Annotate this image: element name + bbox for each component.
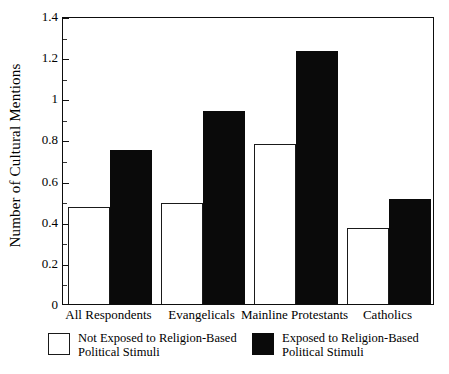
legend-label-exposed-line2: Political Stimuli	[282, 346, 419, 360]
x-axis-category-labels: All RespondentsEvangelicalsMainline Prot…	[62, 307, 434, 329]
y-tick-label: 0.4	[42, 215, 58, 231]
bar-exposed	[389, 199, 431, 304]
y-tick-label: 0	[52, 297, 59, 313]
y-axis-tick-mark	[63, 18, 69, 19]
y-axis-minor-tick-mark	[63, 80, 67, 81]
plot-area	[62, 17, 434, 305]
bar-not-exposed	[68, 207, 110, 304]
bar-exposed	[203, 111, 245, 304]
legend-label-exposed-line1: Exposed to Religion-Based	[282, 332, 419, 346]
x-axis-label: All Respondents	[65, 307, 151, 323]
x-axis-label: Evangelicals	[168, 307, 234, 323]
x-axis-label: Catholics	[363, 307, 412, 323]
y-axis-minor-tick-mark	[63, 39, 67, 40]
chart-legend: Not Exposed to Religion-Based Political …	[48, 332, 448, 374]
legend-label-not-exposed: Not Exposed to Religion-Based Political …	[78, 332, 237, 359]
y-axis-tick-mark	[63, 59, 69, 60]
y-axis-tick-mark	[63, 141, 69, 142]
legend-swatch-not-exposed	[48, 333, 70, 355]
legend-entry-exposed: Exposed to Religion-Based Political Stim…	[252, 332, 419, 359]
y-axis-minor-tick-mark	[63, 285, 67, 286]
bar-not-exposed	[254, 144, 296, 304]
y-tick-label: 0.6	[42, 174, 58, 190]
y-axis-minor-tick-mark	[63, 162, 67, 163]
bar-exposed	[296, 51, 338, 304]
y-axis-tick-mark	[63, 183, 69, 184]
legend-swatch-exposed	[252, 333, 274, 355]
bar-chart-figure: Number of Cultural Mentions 00.20.40.60.…	[0, 0, 449, 374]
legend-label-not-exposed-line1: Not Exposed to Religion-Based	[78, 332, 237, 346]
legend-label-not-exposed-line2: Political Stimuli	[78, 346, 237, 360]
y-tick-label: 0.2	[42, 256, 58, 272]
legend-label-exposed: Exposed to Religion-Based Political Stim…	[282, 332, 419, 359]
bar-exposed	[110, 150, 152, 304]
y-axis-minor-tick-mark	[63, 121, 67, 122]
bar-not-exposed	[161, 203, 203, 304]
y-axis-minor-tick-mark	[63, 244, 67, 245]
y-tick-label: 1	[52, 91, 59, 107]
y-axis-tick-mark	[63, 100, 69, 101]
y-axis-tick-labels: 00.20.40.60.811.21.4	[26, 0, 58, 374]
y-tick-label: 1.2	[42, 50, 58, 66]
y-axis-minor-tick-mark	[63, 203, 67, 204]
y-tick-label: 1.4	[42, 9, 58, 25]
y-axis-title-text: Number of Cultural Mentions	[7, 63, 24, 247]
bar-not-exposed	[347, 228, 389, 304]
y-tick-label: 0.8	[42, 132, 58, 148]
legend-entry-not-exposed: Not Exposed to Religion-Based Political …	[48, 332, 237, 359]
plot-inner	[63, 18, 433, 304]
x-axis-label: Mainline Protestants	[241, 307, 348, 323]
